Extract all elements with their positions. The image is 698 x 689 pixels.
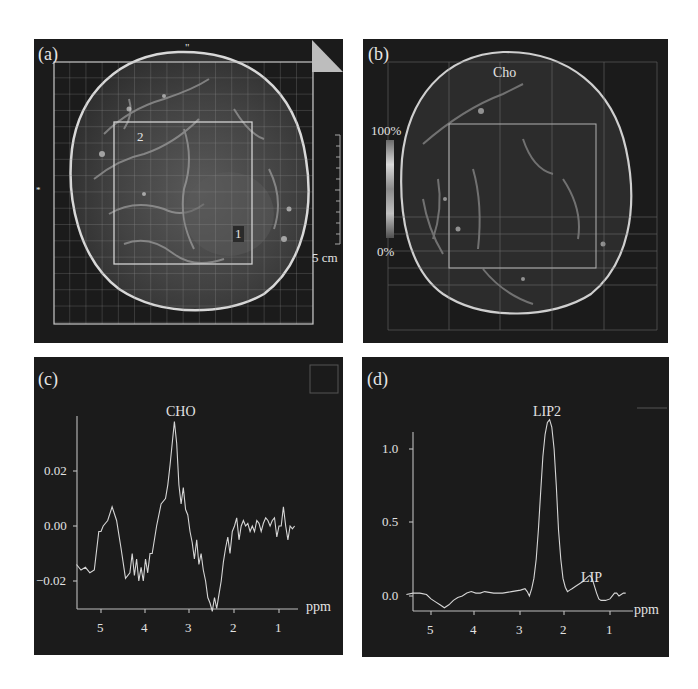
scale-ruler: [335, 135, 340, 244]
x-tick-label: 2: [230, 620, 237, 636]
panel-a-mri-image: (a) " * 2 1 5 cm: [34, 39, 343, 343]
panel-b-cho-map: (b) Cho 100% 0%: [363, 39, 668, 343]
voxel-grid: [54, 62, 313, 324]
y-tick-label: 1.0: [382, 441, 398, 457]
peak-label-cho: CHO: [166, 404, 196, 420]
voxel-marker-1: 1: [233, 226, 244, 242]
x-axis-unit: ppm: [634, 602, 659, 618]
colorbar-min-label: 0%: [377, 244, 394, 260]
orientation-mark-top: ": [185, 41, 190, 53]
lip-spectrum-plot: [362, 357, 669, 657]
y-tick-label: 0.0: [382, 588, 398, 604]
x-tick-label: 5: [97, 620, 104, 636]
orientation-triangle-icon: [312, 40, 343, 72]
peak-label-lip2: LIP2: [533, 404, 561, 420]
voxel-marker-2: 2: [137, 129, 144, 145]
panel-c-cho-spectrum: (c) CHO 0.02 0.00 −0.02 5 4 3 2 1 ppm: [34, 357, 343, 655]
y-tick-label: 0.00: [44, 518, 67, 534]
cho-spectrum-line: [77, 422, 295, 612]
x-tick-label: 1: [275, 620, 282, 636]
x-axis-unit: ppm: [306, 599, 331, 615]
map-title: Cho: [493, 65, 516, 81]
y-tick-label: 0.02: [44, 463, 67, 479]
panel-d-lip-spectrum: (d) LIP2 LIP 1.0 0.5 0.0 5 4 3 2 1 ppm: [362, 357, 669, 657]
mri-slice-image: [34, 39, 343, 343]
x-tick-label: 1: [606, 622, 613, 638]
x-tick-label: 2: [560, 622, 567, 638]
orientation-mark-left: *: [36, 185, 41, 195]
panel-label-c: (c): [38, 370, 58, 388]
y-tick-label: −0.02: [36, 573, 66, 589]
scale-bar-label: 5 cm: [312, 250, 338, 266]
panel-label-a: (a): [38, 45, 58, 63]
peak-label-lip: LIP: [581, 570, 602, 586]
x-tick-label: 5: [427, 622, 434, 638]
x-tick-label: 4: [141, 620, 148, 636]
x-tick-label: 3: [185, 620, 192, 636]
y-tick-label: 0.5: [382, 514, 398, 530]
cho-spectrum-plot: [34, 357, 343, 655]
colorbar-max-label: 100%: [371, 123, 401, 139]
colorbar: [386, 140, 394, 238]
x-tick-label: 4: [470, 622, 477, 638]
panel-label-b: (b): [368, 45, 389, 63]
cho-metabolite-map: [363, 39, 668, 343]
panel-label-d: (d): [367, 370, 388, 388]
x-tick-label: 3: [516, 622, 523, 638]
